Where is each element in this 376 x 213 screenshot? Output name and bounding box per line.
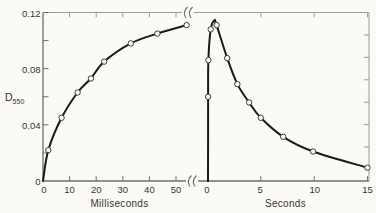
D550-decay-curve <box>208 20 368 181</box>
data-point-marker <box>365 165 370 170</box>
x-axis-title-milliseconds: Milliseconds <box>90 198 148 209</box>
chart-figure: 0.12 0.08 0.04 0 D550 0 10 20 30 40 50 M… <box>0 0 376 213</box>
ms-tick-label-0: 0 <box>41 184 46 195</box>
data-point-marker <box>258 115 263 120</box>
axis-break-mark <box>189 7 192 18</box>
y-tick-label-004: 0.04 <box>22 120 41 131</box>
y-tick-label-0: 0 <box>35 176 40 187</box>
D550-rise-curve <box>43 25 187 181</box>
data-point-marker <box>59 115 64 120</box>
ms-tick-label-50: 50 <box>171 184 182 195</box>
s-tick-label-10: 10 <box>310 184 321 195</box>
y-axis-title: D550 <box>5 91 24 105</box>
data-point-marker <box>46 147 51 152</box>
x-axis-title-seconds: Seconds <box>265 198 306 209</box>
data-point-marker <box>184 22 189 27</box>
y-tick-label-012: 0.12 <box>22 8 41 19</box>
y-tick-label-008: 0.08 <box>22 64 41 75</box>
data-point-marker <box>88 76 93 81</box>
data-point-marker <box>206 58 211 63</box>
s-tick-label-0: 0 <box>204 184 209 195</box>
data-point-marker <box>128 41 133 46</box>
data-point-marker <box>155 31 160 36</box>
data-point-marker <box>225 55 230 60</box>
ms-tick-label-20: 20 <box>91 184 102 195</box>
s-tick-label-15: 15 <box>362 184 373 195</box>
ms-tick-label-40: 40 <box>144 184 155 195</box>
data-point-marker <box>281 134 286 139</box>
y-axis-title-subscript: 550 <box>13 98 25 105</box>
ms-tick-label-10: 10 <box>64 184 75 195</box>
data-point-marker <box>75 90 80 95</box>
data-point-marker <box>246 100 251 105</box>
axis-break-mark <box>188 176 191 187</box>
dual-timebase-line-chart: 0.12 0.08 0.04 0 D550 0 10 20 30 40 50 M… <box>0 0 376 213</box>
axis-break-mark <box>184 7 187 18</box>
data-point-marker <box>310 149 315 154</box>
data-point-marker <box>235 81 240 86</box>
data-point-marker <box>102 59 107 64</box>
axis-break-mark <box>193 176 196 187</box>
plot-geometry <box>43 7 370 187</box>
ms-tick-label-30: 30 <box>118 184 129 195</box>
data-point-marker <box>214 22 219 27</box>
data-point-marker <box>205 94 210 99</box>
s-tick-label-5: 5 <box>257 184 262 195</box>
data-point-marker <box>208 27 213 32</box>
